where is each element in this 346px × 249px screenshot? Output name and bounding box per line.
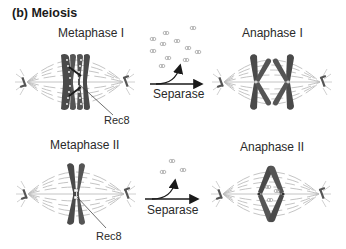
meiosis-diagram [0, 0, 346, 249]
released-cohesin-top [150, 26, 201, 67]
anaphase-2-cell [211, 166, 331, 222]
separase-arrow-bottom [145, 159, 197, 199]
metaphase-1-cell [15, 54, 135, 115]
anaphase-1-cell [212, 54, 332, 109]
metaphase-2-cell [16, 163, 136, 228]
released-cohesin-bottom [160, 159, 186, 173]
separase-arrow-top [150, 26, 201, 84]
